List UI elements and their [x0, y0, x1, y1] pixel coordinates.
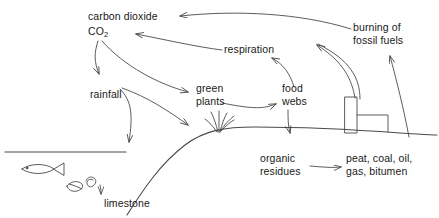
label-food-webs-line2: webs	[282, 95, 307, 108]
grass-tuft	[205, 111, 234, 132]
snail	[86, 177, 96, 187]
arrow-co2-to-rainfall	[95, 41, 99, 74]
arrow-plants-to-food-webs	[222, 103, 276, 108]
arrow-respiration-to-co2	[136, 34, 222, 50]
arrow-shells-to-limestone	[100, 185, 101, 194]
label-rainfall: rainfall	[90, 88, 122, 101]
arrow-deposits-to-burning	[390, 56, 409, 137]
label-burning-fossil-fuels-line1: burning of	[353, 21, 401, 34]
label-organic-residues-line2: residues	[260, 165, 301, 178]
arrow-burning-to-co2	[180, 13, 351, 29]
label-limestone: limestone	[104, 197, 150, 210]
label-food-webs-line1: food	[282, 82, 303, 95]
factory	[345, 97, 388, 133]
arrow-food-webs-to-organic-residues	[288, 110, 290, 133]
label-carbon-dioxide: carbon dioxide	[88, 10, 158, 23]
carbon-cycle-diagram: carbon dioxide CO2 respiration burning o…	[0, 0, 439, 218]
label-green-plants-line2: plants	[196, 95, 225, 108]
co2-subscript: 2	[104, 30, 108, 39]
arrow-co2-to-green-plants	[102, 41, 188, 92]
shell	[67, 182, 83, 192]
label-burning-fossil-fuels-line2: fossil fuels	[353, 34, 403, 47]
arrow-residues-to-fossil-products	[310, 166, 341, 167]
label-green-plants-line1: green	[196, 82, 223, 95]
smoke-plume-outer	[317, 45, 355, 98]
label-organic-residues-line1: organic	[260, 152, 295, 165]
label-co2-formula: CO2	[88, 25, 108, 40]
fish	[22, 163, 64, 175]
label-fossil-products-line2: gas, bitumen	[346, 165, 407, 178]
co2-text: CO	[88, 25, 104, 37]
label-respiration: respiration	[224, 43, 274, 56]
label-fossil-products-line1: peat, coal, oil,	[346, 152, 412, 165]
arrow-rainfall-to-ground	[122, 88, 188, 125]
